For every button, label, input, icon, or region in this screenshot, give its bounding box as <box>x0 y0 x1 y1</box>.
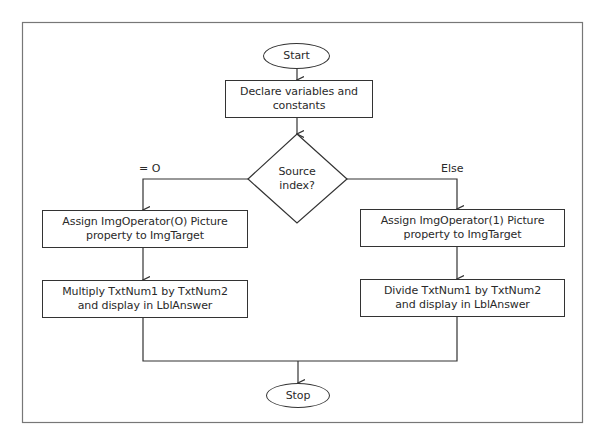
stop-terminal: Stop <box>266 383 330 408</box>
flowchart-canvas: Start Declare variables and constants So… <box>0 0 599 437</box>
edge-label-else: Else <box>441 162 464 175</box>
divide-label: Divide TxtNum1 by TxtNum2 and display in… <box>383 284 543 312</box>
divide-process-box: Divide TxtNum1 by TxtNum2 and display in… <box>360 279 565 317</box>
declare-label: Declare variables and constants <box>232 85 366 113</box>
declare-process-box: Declare variables and constants <box>225 80 373 118</box>
edge-label-zero: = O <box>139 162 160 175</box>
multiply-process-box: Multiply TxtNum1 by TxtNum2 and display … <box>42 280 248 318</box>
assign0-label: Assign ImgOperator(O) Picture property t… <box>60 215 230 243</box>
decision-label: Source index? <box>272 165 322 193</box>
start-label: Start <box>283 49 309 63</box>
start-terminal: Start <box>263 43 330 69</box>
edge-decision-assign0 <box>143 179 248 210</box>
assign1-label: Assign ImgOperator(1) Picture property t… <box>378 214 548 242</box>
stop-label: Stop <box>286 389 311 403</box>
edge-merge <box>143 317 457 361</box>
assign-operator1-process-box: Assign ImgOperator(1) Picture property t… <box>360 209 565 247</box>
decision-label-container: Source index? <box>262 162 332 196</box>
multiply-label: Multiply TxtNum1 by TxtNum2 and display … <box>60 285 230 313</box>
edge-decision-assign1 <box>347 179 457 209</box>
assign-operator0-process-box: Assign ImgOperator(O) Picture property t… <box>42 210 248 248</box>
